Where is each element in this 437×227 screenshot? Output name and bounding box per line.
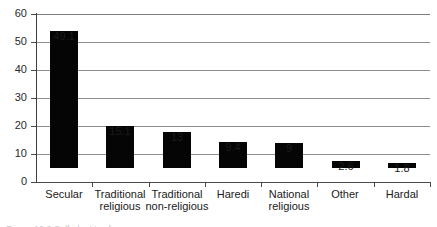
x-tick <box>317 182 318 187</box>
bar <box>50 31 78 168</box>
category-label-line1: Other <box>331 188 359 200</box>
bar-value-label: 49.1 <box>40 31 88 42</box>
bar-value-label: 15.1 <box>96 126 144 137</box>
x-axis-category-label: Hardal <box>370 188 434 200</box>
bar-value-label: 13 <box>153 132 201 143</box>
category-label-line2: religious <box>257 200 321 212</box>
x-tick <box>261 182 262 187</box>
bar-value-label: 1.8 <box>378 163 426 174</box>
y-axis-label-60: 60 <box>0 8 27 19</box>
bar-group <box>388 0 416 168</box>
x-tick-end <box>430 182 431 187</box>
bar-chart: 0102030405060 49.1Secular15.1Traditional… <box>0 0 437 227</box>
y-axis-label-20: 20 <box>0 120 27 131</box>
category-label-line1: National <box>269 188 309 200</box>
y-axis-label-50: 50 <box>0 36 27 47</box>
x-axis-category-label: Haredi <box>201 188 265 200</box>
category-label-line2: religious <box>88 200 152 212</box>
category-label-line1: Traditional <box>95 188 146 200</box>
y-axis-label-0: 0 <box>0 176 27 187</box>
x-tick <box>374 182 375 187</box>
y-axis-label-40: 40 <box>0 64 27 75</box>
x-tick <box>149 182 150 187</box>
y-axis-line <box>36 13 37 183</box>
x-tick <box>92 182 93 187</box>
bar-group <box>332 0 360 168</box>
x-axis-line <box>36 182 430 183</box>
x-axis-category-label: Secular <box>32 188 96 200</box>
bar-value-label: 2.6 <box>322 161 370 172</box>
category-label-line1: Traditional <box>152 188 203 200</box>
x-axis-category-label: Traditionalnon-religious <box>145 188 209 212</box>
x-axis-category-label: Traditionalreligious <box>88 188 152 212</box>
category-label-line1: Secular <box>45 188 82 200</box>
category-label-line2: non-religious <box>145 200 209 212</box>
category-label-line1: Haredi <box>217 188 249 200</box>
x-axis-category-label: Other <box>313 188 377 200</box>
bar-value-label: 9.4 <box>209 142 257 153</box>
y-axis-label-10: 10 <box>0 148 27 159</box>
bar-value-label: 9 <box>265 143 313 154</box>
bar-group <box>106 0 134 168</box>
category-label-line1: Hardal <box>386 188 418 200</box>
cut-off-caption: Figure 10.2 Self-identity of <box>6 224 111 227</box>
x-tick <box>205 182 206 187</box>
x-axis-category-label: Nationalreligious <box>257 188 321 212</box>
y-axis-label-30: 30 <box>0 92 27 103</box>
bar-group <box>50 0 78 168</box>
